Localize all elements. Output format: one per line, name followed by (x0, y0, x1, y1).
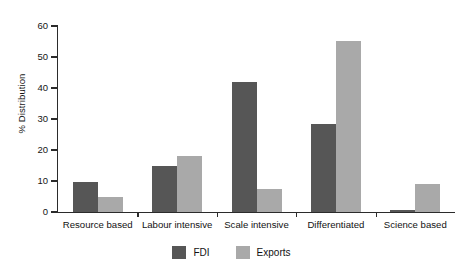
y-axis-tick-label: 20 (24, 145, 48, 155)
bar-fdi-scale-intensive (232, 82, 257, 212)
y-axis-tick-label: 60 (24, 21, 48, 31)
bar-exports-science-based (415, 184, 440, 212)
bar-fdi-labour-intensive (152, 166, 177, 212)
x-axis-tick (137, 212, 138, 217)
y-axis-tick-label: 10 (24, 176, 48, 186)
x-axis-label-differentiated: Differentiated (296, 219, 375, 230)
y-axis-tick-label: 50 (24, 52, 48, 62)
y-axis-title: % Distribution (16, 49, 27, 159)
bar-exports-resource-based (98, 197, 123, 212)
chart-legend: FDIExports (0, 246, 463, 259)
y-axis-tick (51, 149, 57, 150)
bar-exports-scale-intensive (257, 189, 282, 212)
bar-fdi-science-based (390, 210, 415, 212)
bar-exports-labour-intensive (177, 156, 202, 212)
y-axis-tick (51, 180, 57, 181)
legend-item-exports: Exports (236, 246, 291, 259)
bar-fdi-differentiated (311, 124, 336, 212)
y-axis-tick (51, 56, 57, 57)
x-axis-tick (217, 212, 218, 217)
bar-fdi-resource-based (73, 182, 98, 212)
x-axis-label-scale-intensive: Scale intensive (217, 219, 296, 230)
y-axis-tick (51, 118, 57, 119)
legend-label: Exports (257, 248, 291, 258)
x-axis-tick (296, 212, 297, 217)
y-axis-tick (51, 87, 57, 88)
x-axis-label-labour-intensive: Labour intensive (137, 219, 216, 230)
legend-label: FDI (193, 248, 209, 258)
y-axis-tick-label: 40 (24, 83, 48, 93)
x-axis-tick (376, 212, 377, 217)
y-axis-tick (51, 211, 57, 212)
bar-chart: % Distribution 0102030405060 Resource ba… (0, 0, 463, 274)
plot-area (58, 26, 455, 212)
y-axis-tick-label: 0 (24, 207, 48, 217)
legend-swatch-exports-icon (236, 246, 250, 259)
x-axis-label-resource-based: Resource based (58, 219, 137, 230)
bar-exports-differentiated (336, 41, 361, 212)
legend-swatch-fdi-icon (172, 246, 186, 259)
y-axis-tick (51, 25, 57, 26)
legend-item-fdi: FDI (172, 246, 209, 259)
y-axis-tick-label: 30 (24, 114, 48, 124)
x-axis-label-science-based: Science based (376, 219, 455, 230)
